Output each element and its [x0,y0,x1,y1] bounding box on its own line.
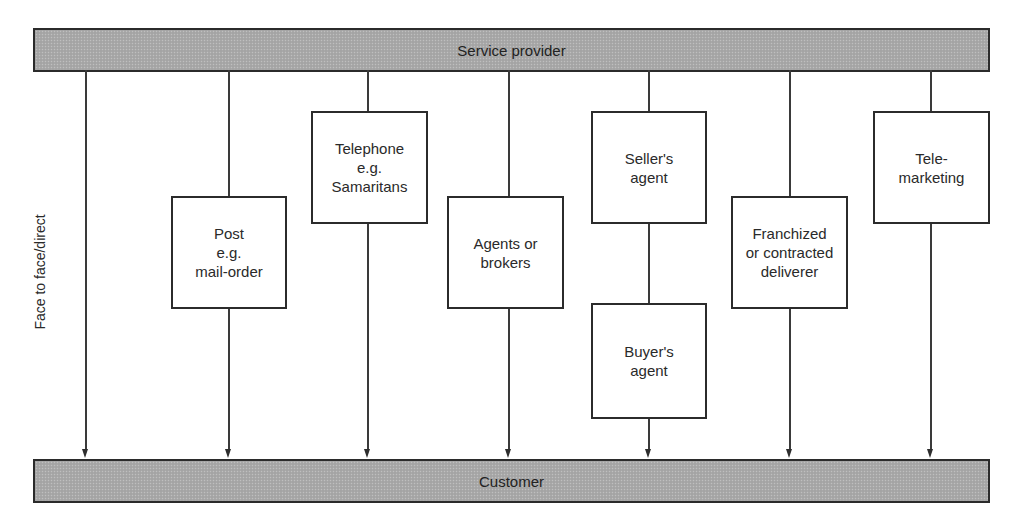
arrowhead-telemarketing-icon [927,449,933,458]
connector-post-top [228,70,230,197]
box-sellers-agent: Seller's agent [591,111,707,224]
connector-agents-bottom [508,309,510,450]
connector-post-bottom [228,309,230,450]
box-agents-brokers: Agents or brokers [447,196,564,309]
connector-telephone-top [367,70,369,112]
box-sellers-agent-label: Seller's agent [625,149,674,187]
arrowhead-telephone-icon [364,449,370,458]
box-post: Post e.g. mail-order [171,196,287,309]
box-agents-brokers-label: Agents or brokers [473,234,537,272]
box-telemarketing-label: Tele- marketing [899,149,965,187]
connector-telemarketing-bottom [930,224,932,450]
connector-direct [85,70,87,450]
box-franchized-deliverer-label: Franchized or contracted deliverer [746,224,834,281]
box-telephone-label: Telephone e.g. Samaritans [332,139,408,196]
connector-telemarketing-top [930,70,932,112]
connector-telephone-bottom [367,224,369,450]
customer-label: Customer [479,473,544,490]
box-post-label: Post e.g. mail-order [195,224,263,281]
box-buyers-agent-label: Buyer's agent [624,342,674,380]
customer-bar: Customer [33,459,990,503]
connector-seller-top [648,70,650,112]
box-telemarketing: Tele- marketing [873,111,990,224]
arrowhead-direct-icon [82,449,88,458]
connector-agents-top [508,70,510,197]
connector-franchise-bottom [789,309,791,450]
face-to-face-label: Face to face/direct [32,214,48,329]
connector-buyer-bottom [648,419,650,450]
arrowhead-agent-chain-icon [645,449,651,458]
arrowhead-post-icon [225,449,231,458]
arrowhead-agents-icon [505,449,511,458]
connector-franchise-top [789,70,791,197]
box-telephone: Telephone e.g. Samaritans [311,111,428,224]
box-franchized-deliverer: Franchized or contracted deliverer [731,196,848,309]
service-provider-label: Service provider [457,42,565,59]
arrowhead-franchise-icon [786,449,792,458]
service-provider-bar: Service provider [33,28,990,72]
connector-seller-buyer [648,224,650,304]
box-buyers-agent: Buyer's agent [591,303,707,419]
